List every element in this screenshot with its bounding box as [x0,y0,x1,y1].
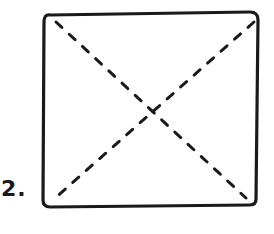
diagonal-top-left-to-bottom-right [56,22,246,198]
square-with-diagonals-diagram [0,0,274,234]
